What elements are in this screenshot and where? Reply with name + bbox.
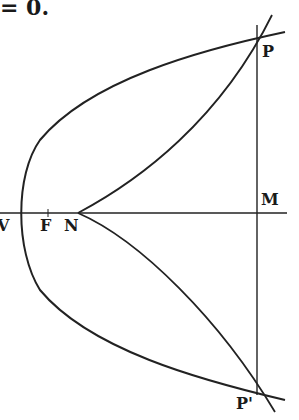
label-N: N: [64, 218, 79, 234]
label-P-prime: P': [236, 396, 253, 412]
parabola-diagram: [0, 0, 299, 420]
label-M: M: [261, 192, 279, 208]
normal-NP: [78, 15, 272, 213]
label-P: P: [262, 44, 274, 60]
label-F: F: [40, 218, 51, 234]
parabola-curve: [21, 32, 285, 400]
label-V: V: [0, 218, 9, 234]
normal-NP-prime: [78, 213, 275, 412]
